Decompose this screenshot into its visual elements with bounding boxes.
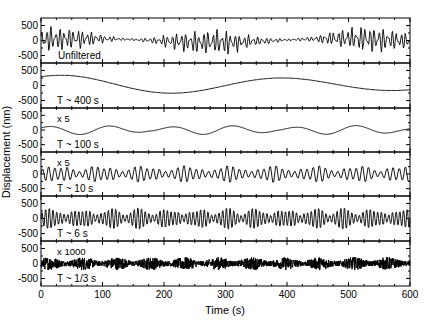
panel-label: T ~ 10 s (57, 183, 93, 194)
y-tick-label: 0 (32, 258, 38, 269)
panel-label: T ~ 6 s (57, 228, 88, 239)
panels-group: -5000500Unfiltered-5000500T ~ 400 s-5000… (18, 18, 410, 286)
panel-2: -5000500T ~ 400 s (18, 63, 410, 108)
trace-line (41, 257, 410, 270)
panel-label: T ~ 1/3 s (57, 273, 96, 284)
trace-line (41, 166, 409, 182)
x-tick-label: 200 (156, 289, 173, 300)
y-tick-label: 0 (32, 35, 38, 46)
panel-label: T ~ 400 s (57, 95, 99, 106)
trace-line (41, 208, 410, 229)
x-tick-label: 400 (279, 289, 296, 300)
panel-4: -5000500x 5T ~ 10 s (18, 152, 410, 196)
y-tick-label: -500 (18, 139, 38, 150)
y-tick-label: 0 (32, 125, 38, 136)
panel-5: -5000500T ~ 6 s (18, 196, 410, 241)
y-tick-label: 0 (32, 169, 38, 180)
y-tick-label: 500 (21, 65, 38, 76)
panel-3: -5000500x 5T ~ 100 s (18, 108, 410, 152)
x-axis: 0100200300400500600 (38, 289, 419, 300)
y-axis-label: Displacement (nm) (0, 106, 12, 198)
x-tick-label: 100 (94, 289, 111, 300)
x-tick-label: 300 (217, 289, 234, 300)
y-tick-label: 500 (21, 154, 38, 165)
y-tick-label: 0 (32, 213, 38, 224)
y-tick-label: 500 (21, 198, 38, 209)
y-tick-label: 0 (32, 80, 38, 91)
y-tick-label: -500 (18, 228, 38, 239)
seismogram-figure: -5000500Unfiltered-5000500T ~ 400 s-5000… (0, 0, 433, 330)
panel-1: -5000500Unfiltered (18, 18, 410, 63)
trace-line (41, 75, 410, 93)
y-tick-label: -500 (18, 95, 38, 106)
panel-label: T ~ 100 s (57, 139, 99, 150)
y-tick-label: 500 (21, 20, 38, 31)
trace-line (41, 126, 410, 135)
x-axis-label: Time (s) (205, 304, 245, 316)
panel-label: Unfiltered (58, 50, 101, 61)
panel-6: -5000500x 1000T ~ 1/3 s (18, 241, 410, 286)
y-tick-label: -500 (18, 273, 38, 284)
scale-note: x 1000 (57, 246, 86, 257)
y-tick-label: -500 (18, 183, 38, 194)
x-tick-label: 500 (340, 289, 357, 300)
scale-note: x 5 (57, 113, 70, 124)
y-tick-label: 500 (21, 110, 38, 121)
y-tick-label: 500 (21, 243, 38, 254)
scale-note: x 5 (57, 157, 70, 168)
y-tick-label: -500 (18, 50, 38, 61)
x-tick-label: 600 (402, 289, 419, 300)
x-tick-label: 0 (38, 289, 44, 300)
